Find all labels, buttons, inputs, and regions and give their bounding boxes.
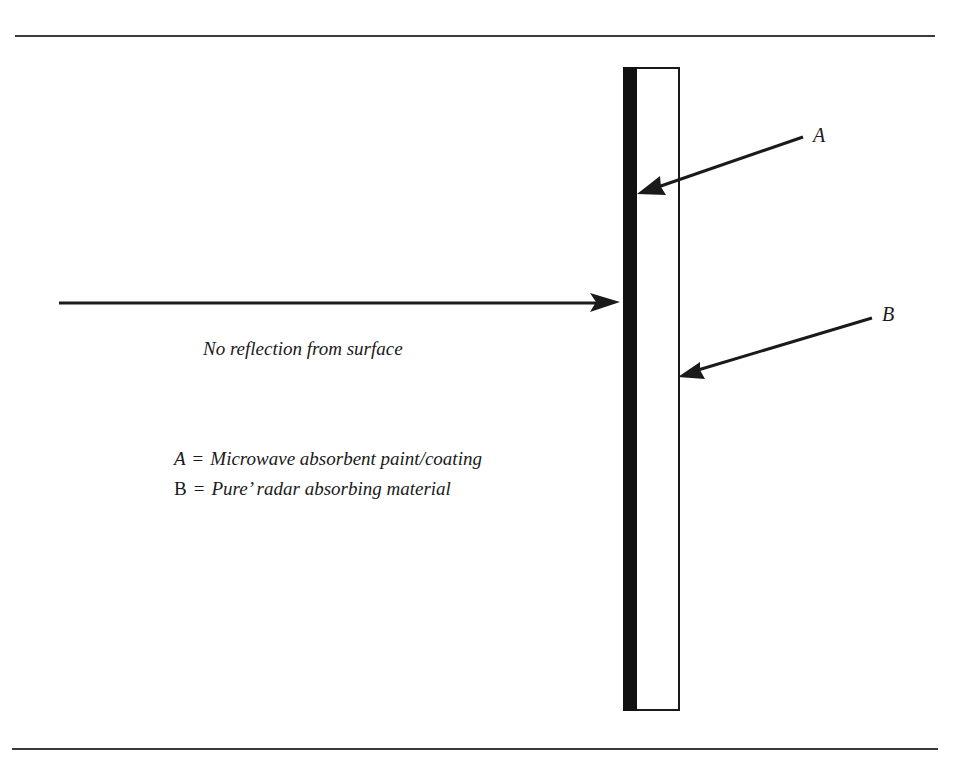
diagram-canvas	[0, 0, 957, 763]
ram-layer	[636, 68, 679, 710]
incident-arrow	[59, 293, 620, 312]
legend-equals: =	[187, 478, 212, 499]
marker-a: A	[813, 124, 825, 147]
marker-b: B	[882, 303, 894, 326]
incident-caption: No reflection from surface	[203, 338, 403, 360]
legend-text: Microwave absorbent paint/coating	[210, 448, 482, 469]
legend-item-a: A=Microwave absorbent paint/coating	[174, 444, 482, 474]
legend-key: B	[174, 478, 187, 499]
legend-key: A	[174, 448, 186, 469]
leader-arrow-b	[678, 318, 872, 379]
legend-text: Pure’ radar absorbing material	[211, 478, 450, 499]
legend-item-b: B=Pure’ radar absorbing material	[174, 474, 482, 504]
coating-layer	[623, 67, 637, 711]
absorber-panel	[623, 67, 679, 711]
bottom-rule	[12, 748, 938, 750]
legend-equals: =	[186, 448, 211, 469]
legend: A=Microwave absorbent paint/coating B=Pu…	[174, 444, 482, 504]
